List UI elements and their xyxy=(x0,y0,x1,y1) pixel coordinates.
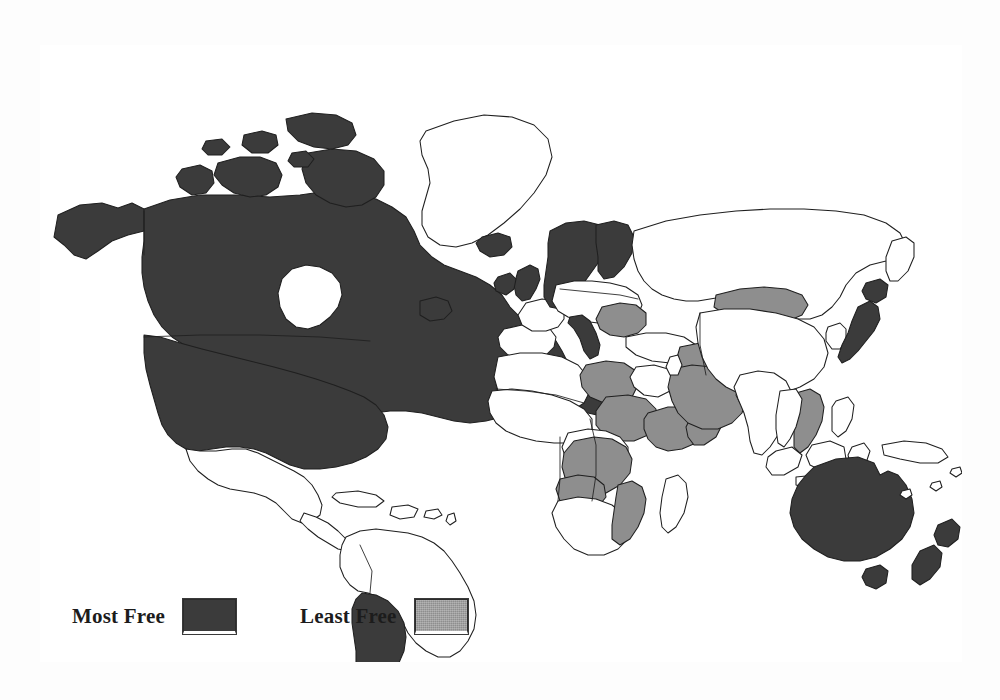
region-victoria-island xyxy=(214,157,282,197)
legend-entry-most-free: Most Free xyxy=(72,599,236,634)
region-finland xyxy=(596,221,634,279)
region-new-zealand-north xyxy=(934,519,960,547)
legend-swatch-least-free xyxy=(415,599,468,634)
region-pacific-islet-a xyxy=(930,481,942,491)
region-romania-bulgaria xyxy=(596,303,646,337)
region-united-kingdom xyxy=(514,265,540,301)
region-hokkaido xyxy=(862,279,888,303)
region-pacific-islet-b xyxy=(950,467,962,477)
region-puerto-rico xyxy=(424,509,442,519)
region-philippines xyxy=(832,397,854,437)
figure-page: Most Free Least Free xyxy=(0,0,1000,700)
region-greenland xyxy=(420,115,552,247)
legend-label-least-free: Least Free xyxy=(300,604,397,629)
region-australia xyxy=(790,457,914,561)
legend-entry-least-free: Least Free xyxy=(300,599,468,634)
region-cuba xyxy=(332,491,384,507)
region-new-zealand-south xyxy=(912,545,942,585)
region-hispaniola xyxy=(390,505,418,519)
region-ireland xyxy=(494,273,516,295)
region-mozambique xyxy=(612,481,646,545)
region-arctic-islet-c xyxy=(202,139,230,155)
world-map xyxy=(40,45,962,662)
region-banks-island xyxy=(176,165,214,195)
map-legend: Most Free Least Free xyxy=(72,599,468,634)
region-sumatra xyxy=(766,447,802,475)
legend-swatch-most-free xyxy=(183,599,236,634)
region-ellesmere-island xyxy=(286,113,356,149)
region-madagascar xyxy=(660,475,688,533)
region-tasmania xyxy=(862,565,888,589)
legend-label-most-free: Most Free xyxy=(72,604,165,629)
region-new-guinea xyxy=(882,441,948,463)
map-frame: Most Free Least Free xyxy=(40,45,962,662)
region-alaska xyxy=(54,203,152,259)
region-lesser-antilles xyxy=(446,513,456,525)
region-arctic-islet-a xyxy=(242,131,278,153)
